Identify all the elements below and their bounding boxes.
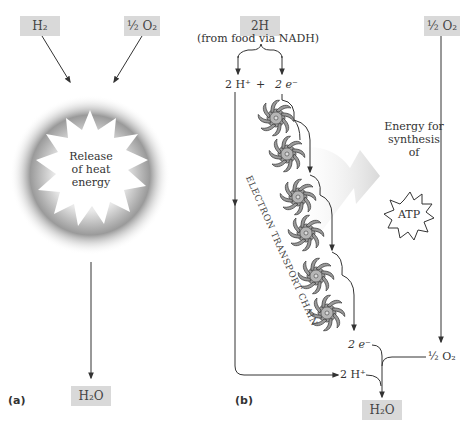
h2o-output-b: H₂O	[369, 403, 394, 417]
heat-text-line-1: Release	[60, 150, 122, 163]
plus-sign: +	[256, 78, 265, 91]
half-o2-top-label: ½ O₂	[427, 19, 457, 33]
half-o2-label: ½ O₂	[127, 19, 157, 33]
energy-text-line-2: synthesis	[380, 133, 448, 146]
h2-label-box: H₂	[20, 16, 60, 36]
heat-release-text: Release of heat energy	[60, 150, 122, 189]
energy-text-line-1: Energy for	[380, 120, 448, 133]
nadh-source-note: (from food via NADH)	[197, 32, 319, 45]
bottom-half-o2-label: ½ O₂	[428, 350, 456, 363]
half-o2-label-box: ½ O₂	[124, 16, 160, 36]
heat-text-line-2: of heat	[60, 163, 122, 176]
2h-label: 2H	[251, 19, 269, 33]
h2o-output-box-a: H₂O	[71, 386, 111, 406]
h2o-output-a: H₂O	[78, 389, 103, 403]
panel-a-label: (a)	[8, 394, 25, 407]
bottom-protons-label: 2 H⁺	[340, 368, 366, 381]
energy-text-line-3: of	[380, 146, 448, 159]
panel-b-label: (b)	[235, 394, 253, 407]
atp-label: ATP	[398, 208, 420, 221]
panel-a-graphics	[10, 36, 170, 378]
bottom-electrons-label: 2 e⁻	[348, 338, 371, 351]
electrons-label: 2 e⁻	[275, 78, 298, 91]
half-o2-top-box: ½ O₂	[424, 16, 460, 36]
atp-energy-text: Energy for synthesis of	[380, 120, 448, 159]
protons-label: 2 H⁺	[225, 78, 251, 91]
heat-text-line-3: energy	[60, 176, 122, 189]
h2o-output-box-b: H₂O	[362, 400, 402, 420]
h2-label: H₂	[32, 19, 47, 33]
gear-icon	[256, 98, 295, 137]
